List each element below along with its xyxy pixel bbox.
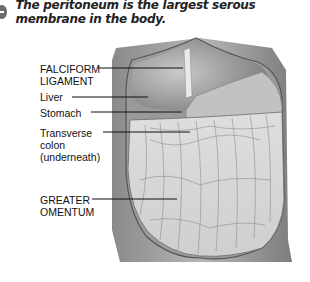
label-stomach: Stomach xyxy=(40,107,81,119)
label-greater-omentum: GREATER OMENTUM xyxy=(40,194,94,218)
label-line: GREATER xyxy=(40,194,94,206)
label-line: Liver xyxy=(40,91,63,103)
label-line: LIGAMENT xyxy=(40,75,100,87)
label-falciform-ligament: FALCIFORM LIGAMENT xyxy=(40,63,100,87)
peritoneum-illustration: FALCIFORM LIGAMENT Liver Stomach Transve… xyxy=(0,0,310,282)
label-line: OMENTUM xyxy=(40,206,94,218)
label-transverse-colon: Transverse colon (underneath) xyxy=(40,127,100,163)
label-line: FALCIFORM xyxy=(40,63,100,75)
label-line: Stomach xyxy=(40,107,81,119)
label-line: Transverse xyxy=(40,127,100,139)
label-liver: Liver xyxy=(40,91,63,103)
label-line: (underneath) xyxy=(40,151,100,163)
label-line: colon xyxy=(40,139,100,151)
